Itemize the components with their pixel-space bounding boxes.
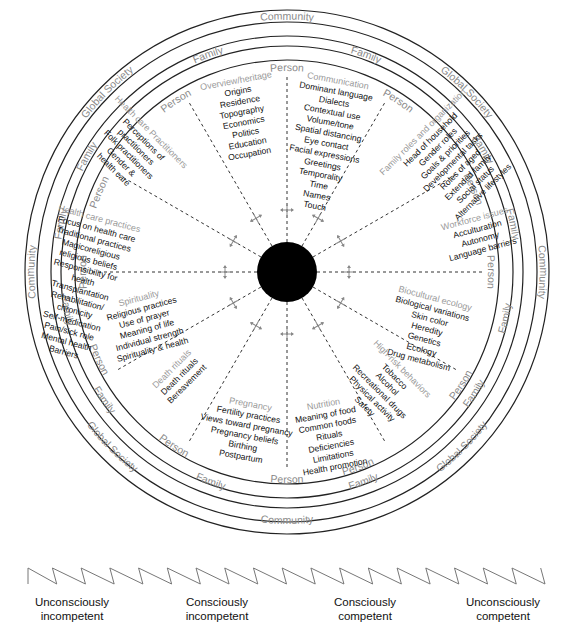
bidirectional-arrow-icon: [247, 318, 264, 334]
stage-consciously-incompetent: Consciously incompetent: [157, 595, 277, 623]
domain-spirituality: SpiritualityReligious practicesUse of pr…: [102, 284, 190, 364]
bidirectional-arrow-icon: [220, 265, 230, 279]
stage-line1: Unconsciously: [443, 595, 563, 609]
community-label: Community: [536, 245, 549, 301]
stage-line2: competent: [443, 609, 563, 623]
community-label: Community: [260, 9, 316, 22]
cultural-competence-wheel: CommunityGlobal SocietyCommunityGlobal S…: [0, 0, 572, 629]
bidirectional-arrow-icon: [247, 210, 264, 226]
stage-line1: Unconsciously: [12, 595, 132, 609]
domain-workforce-issues: Workforce issuesAcculturationAutonomyLan…: [440, 205, 518, 263]
stage-line2: incompetent: [157, 609, 277, 623]
bidirectional-arrow-icon: [333, 232, 349, 249]
community-label: Community: [24, 244, 37, 300]
family-label: Family: [495, 302, 513, 335]
family-label: Family: [191, 43, 225, 65]
family-label: Family: [91, 384, 119, 416]
family-label: Family: [194, 470, 227, 492]
stage-unconsciously-incompetent: Unconsciously incompetent: [12, 595, 132, 623]
bidirectional-arrow-icon: [333, 294, 349, 311]
bidirectional-arrow-icon: [280, 329, 294, 339]
domain-pregnancy: PregnancyFertility practicesViews toward…: [194, 391, 298, 470]
person-label: Person: [485, 255, 498, 290]
bidirectional-arrow-icon: [225, 232, 241, 249]
stage-line1: Consciously: [305, 595, 425, 609]
competence-zigzag-scale: [28, 568, 545, 584]
bidirectional-arrow-icon: [309, 210, 326, 226]
family-label: Family: [350, 43, 384, 65]
stage-line1: Consciously: [157, 595, 277, 609]
family-label: Family: [73, 139, 99, 173]
person-core: [257, 242, 317, 302]
domain-nutrition: NutritionMeaning of foodCommon foodsRitu…: [290, 393, 368, 477]
person-label: Person: [157, 431, 191, 459]
stage-line2: incompetent: [12, 609, 132, 623]
bidirectional-arrow-icon: [309, 318, 326, 334]
stage-consciously-competent: Consciously competent: [305, 595, 425, 623]
domain-overview-heritage: Overview/heritageOriginsResidenceTopogra…: [199, 69, 286, 165]
global-society-label: Global Society: [434, 418, 490, 474]
domain-communication: CommunicationDominant languageDialectsCo…: [277, 69, 376, 218]
stage-line2: competent: [305, 609, 425, 623]
community-label: Community: [260, 513, 314, 526]
domain-death-rituals: Death ritualsDeath ritualsBereavement: [150, 347, 209, 406]
global-society-label: Global Society: [85, 419, 141, 475]
bidirectional-arrow-icon: [344, 265, 354, 279]
person-label: Person: [270, 61, 305, 74]
sector-divider: [313, 173, 458, 257]
stage-unconsciously-competent: Unconsciously competent: [443, 595, 563, 623]
bidirectional-arrow-icon: [280, 205, 294, 215]
person-label: Person: [270, 472, 304, 485]
bidirectional-arrow-icon: [225, 294, 241, 311]
sector-divider: [116, 173, 261, 257]
